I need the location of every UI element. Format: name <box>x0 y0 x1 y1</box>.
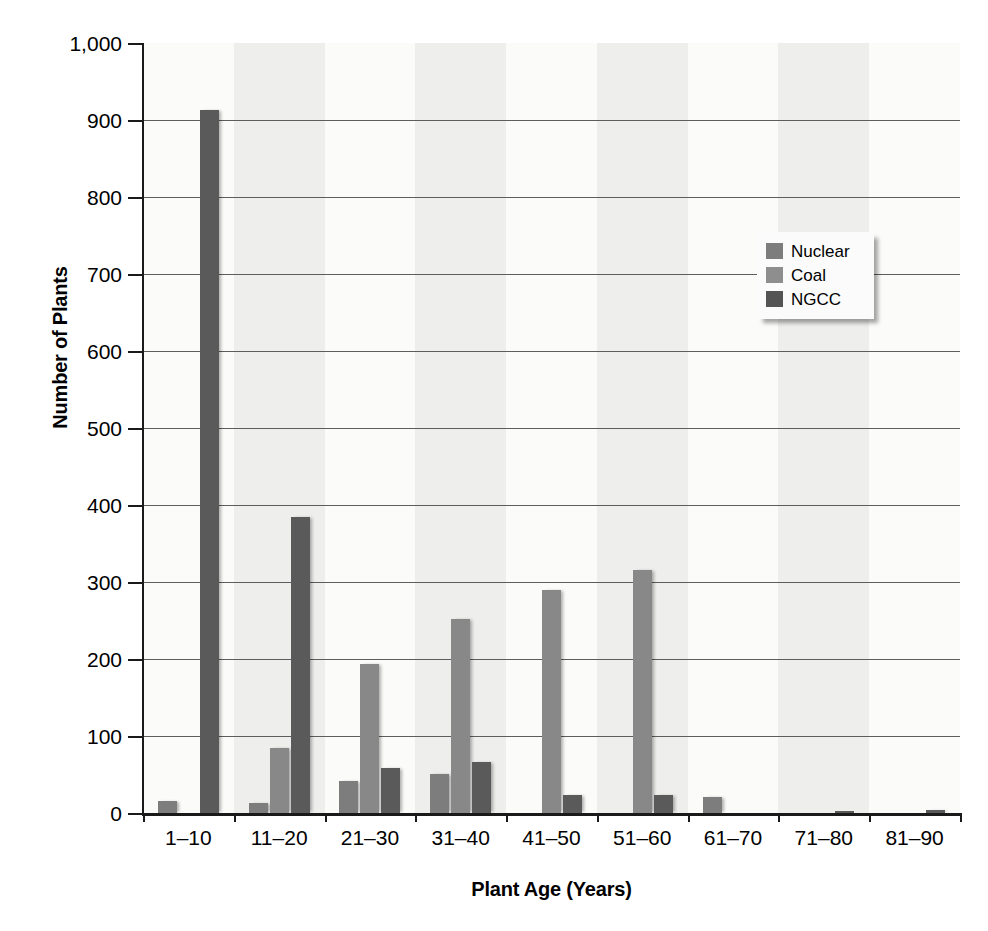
x-axis-tick-label: 21–30 <box>325 826 416 850</box>
x-axis-tick <box>143 813 145 822</box>
bar <box>360 664 379 813</box>
bar <box>451 619 470 813</box>
x-axis-title: Plant Age (Years) <box>143 878 960 901</box>
x-axis-tick <box>597 813 599 822</box>
y-axis-tick-label: 1,000 <box>0 33 122 54</box>
bar <box>381 768 400 813</box>
bar <box>339 781 358 813</box>
legend-item-coal: Coal <box>766 263 866 287</box>
bar <box>472 762 491 813</box>
y-axis-tick <box>128 274 143 276</box>
x-axis-tick-label: 51–60 <box>597 826 688 850</box>
plot-area <box>143 43 960 813</box>
y-axis-tick <box>128 120 143 122</box>
bar <box>703 797 722 813</box>
legend-item-label: NGCC <box>791 291 841 308</box>
y-axis-tick <box>128 197 143 199</box>
legend-item-ngcc: NGCC <box>766 287 866 311</box>
y-axis-tick <box>128 351 143 353</box>
x-axis-tick <box>688 813 690 822</box>
y-axis-tick-label: 300 <box>0 572 122 593</box>
x-axis-tick <box>960 813 962 822</box>
bar <box>158 801 177 813</box>
legend-item-label: Nuclear <box>791 243 850 260</box>
bar <box>563 795 582 813</box>
legend: NuclearCoalNGCC <box>757 232 874 319</box>
gridline <box>143 197 960 198</box>
legend-swatch-icon <box>766 291 783 307</box>
gridline <box>143 351 960 352</box>
legend-item-label: Coal <box>791 267 826 284</box>
bar <box>430 774 449 813</box>
gridline <box>143 120 960 121</box>
y-axis-tick <box>128 813 143 815</box>
x-axis-tick-label: 11–20 <box>234 826 325 850</box>
bar <box>654 795 673 813</box>
y-axis-tick-label: 0 <box>0 803 122 824</box>
x-axis-tick <box>415 813 417 822</box>
y-axis-tick-label: 500 <box>0 418 122 439</box>
y-axis-tick-label: 400 <box>0 495 122 516</box>
bar <box>200 110 219 813</box>
x-axis-tick-label: 61–70 <box>688 826 779 850</box>
y-axis-tick-label: 100 <box>0 726 122 747</box>
bar <box>270 748 289 813</box>
x-axis-tick <box>778 813 780 822</box>
legend-swatch-icon <box>766 267 783 283</box>
x-axis-tick <box>869 813 871 822</box>
x-axis-tick <box>506 813 508 822</box>
y-axis-tick-label: 800 <box>0 187 122 208</box>
bar <box>291 517 310 813</box>
gridline <box>143 428 960 429</box>
bar <box>633 570 652 813</box>
legend-swatch-icon <box>766 243 783 259</box>
y-axis-tick <box>128 43 143 45</box>
x-axis-tick-label: 81–90 <box>869 826 960 850</box>
x-axis-tick <box>325 813 327 822</box>
y-axis-tick <box>128 428 143 430</box>
y-axis-tick-label: 600 <box>0 341 122 362</box>
gridline <box>143 582 960 583</box>
y-axis-tick-label: 900 <box>0 110 122 131</box>
x-axis-tick-label: 31–40 <box>415 826 506 850</box>
y-axis-tick <box>128 505 143 507</box>
x-axis-tick-label: 71–80 <box>778 826 869 850</box>
y-axis-tick <box>128 582 143 584</box>
x-axis-tick <box>234 813 236 822</box>
bar-chart: Number of Plants 01002003004005006007008… <box>0 0 988 931</box>
legend-item-nuclear: Nuclear <box>766 239 866 263</box>
y-axis-tick <box>128 659 143 661</box>
y-axis-tick <box>128 736 143 738</box>
x-axis-tick-label: 1–10 <box>143 826 234 850</box>
y-axis-tick-label: 200 <box>0 649 122 670</box>
bar <box>542 590 561 813</box>
bar <box>249 803 268 813</box>
x-axis-line <box>142 813 960 816</box>
y-axis-tick-label: 700 <box>0 264 122 285</box>
x-axis-tick-label: 41–50 <box>506 826 597 850</box>
gridline <box>143 505 960 506</box>
